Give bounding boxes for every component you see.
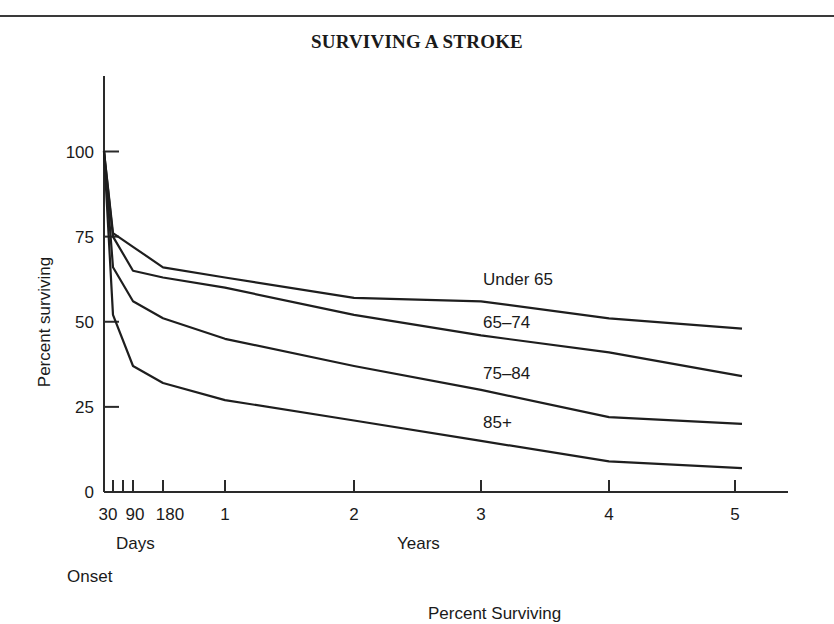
y-tick-label: 75 (75, 228, 94, 247)
y-tick-label: 50 (75, 313, 94, 332)
series-lines (104, 152, 742, 469)
series-line (104, 152, 742, 377)
x-tick-label: 180 (156, 505, 184, 524)
series-line (104, 152, 742, 469)
y-ticks: 0255075100 (66, 143, 119, 503)
series-label: 85+ (483, 413, 512, 432)
x-tick-label: 90 (126, 505, 145, 524)
x-axis-days-title: Days (116, 534, 155, 553)
x-tick-label: 5 (730, 505, 739, 524)
series-label: 65–74 (483, 313, 530, 332)
x-tick-label: 2 (349, 505, 358, 524)
series-label: Under 65 (483, 270, 553, 289)
series-line (104, 152, 742, 329)
series-labels: Under 6565–7475–8485+ (483, 270, 553, 432)
y-tick-label: 0 (85, 483, 94, 502)
y-tick-label: 25 (75, 398, 94, 417)
x-tick-label: 4 (604, 505, 613, 524)
series-label: 75–84 (483, 364, 530, 383)
x-axis-onset-label: Onset (67, 567, 113, 586)
y-axis-title: Percent surviving (35, 257, 54, 387)
x-tick-label: 1 (220, 505, 229, 524)
x-axis-years-title: Years (397, 534, 440, 553)
x-tick-label: 30 (99, 505, 118, 524)
x-ticks: 309018012345 (99, 480, 740, 524)
series-line (104, 152, 742, 424)
x-tick-label: 3 (476, 505, 485, 524)
y-tick-label: 100 (66, 143, 94, 162)
bottom-caption-partial: Percent Surviving (428, 604, 561, 624)
